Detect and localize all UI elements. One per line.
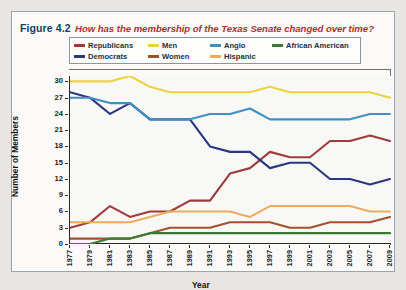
legend-label-african-american: African American bbox=[286, 41, 349, 50]
x-tick-mark bbox=[289, 245, 290, 248]
x-tick-label: 1997 bbox=[265, 250, 274, 266]
x-tick-label: 1977 bbox=[65, 250, 74, 266]
figure-number: Figure 4.2 bbox=[20, 22, 71, 34]
y-tick-label: 15 bbox=[47, 158, 63, 167]
x-tick-label: 1991 bbox=[205, 250, 214, 266]
x-tick-mark bbox=[389, 245, 390, 248]
legend-label-men: Men bbox=[162, 41, 177, 50]
legend-item-republicans: Republicans bbox=[74, 41, 148, 50]
x-tick-mark bbox=[109, 245, 110, 248]
x-tick-mark bbox=[349, 245, 350, 248]
x-tick-label: 1979 bbox=[85, 250, 94, 266]
series-line-african-american bbox=[70, 233, 390, 244]
y-axis-label: Number of Members bbox=[10, 116, 20, 197]
y-tick-mark bbox=[65, 228, 68, 229]
x-tick-label: 1989 bbox=[185, 250, 194, 266]
x-tick-label: 1981 bbox=[105, 250, 114, 266]
legend-swatch-republicans bbox=[74, 44, 85, 47]
y-tick-label: 18 bbox=[47, 141, 63, 150]
y-tick-mark bbox=[65, 163, 68, 164]
chart-lines bbox=[70, 76, 392, 244]
legend-item-anglo: Anglo bbox=[210, 41, 272, 50]
chart-legend: Republicans Men Anglo African American D… bbox=[69, 37, 361, 64]
figure-header: Figure 4.2 How has the membership of the… bbox=[20, 18, 388, 32]
series-line-women bbox=[70, 217, 390, 239]
x-tick-mark bbox=[149, 245, 150, 248]
plot-area bbox=[69, 76, 391, 244]
x-tick-label: 2001 bbox=[305, 250, 314, 266]
legend-swatch-anglo bbox=[210, 44, 221, 47]
legend-item-hispanic: Hispanic bbox=[210, 52, 272, 61]
y-tick-label: 30 bbox=[47, 76, 63, 85]
y-tick-label: 12 bbox=[47, 174, 63, 183]
legend-label-hispanic: Hispanic bbox=[224, 52, 256, 61]
x-tick-mark bbox=[89, 245, 90, 248]
legend-swatch-democrats bbox=[74, 55, 85, 58]
y-tick-mark bbox=[65, 195, 68, 196]
x-tick-label: 1983 bbox=[125, 250, 134, 266]
figure-title: How has the membership of the Texas Sena… bbox=[75, 23, 374, 34]
y-tick-label: 27 bbox=[47, 93, 63, 102]
y-tick-mark bbox=[65, 211, 68, 212]
series-line-men bbox=[70, 76, 390, 98]
y-tick-label: 24 bbox=[47, 109, 63, 118]
legend-item-women: Women bbox=[148, 52, 210, 61]
x-tick-mark bbox=[269, 245, 270, 248]
x-tick-mark bbox=[369, 245, 370, 248]
x-tick-label: 1985 bbox=[145, 250, 154, 266]
x-tick-mark bbox=[189, 245, 190, 248]
x-tick-label: 2005 bbox=[345, 250, 354, 266]
legend-label-women: Women bbox=[162, 52, 189, 61]
legend-item-democrats: Democrats bbox=[74, 52, 148, 61]
y-tick-mark bbox=[65, 98, 68, 99]
y-tick-mark bbox=[65, 81, 68, 82]
legend-swatch-african-american bbox=[272, 44, 283, 47]
legend-swatch-women bbox=[148, 55, 159, 58]
x-tick-mark bbox=[69, 245, 70, 248]
legend-label-republicans: Republicans bbox=[88, 41, 133, 50]
legend-swatch-hispanic bbox=[210, 55, 221, 58]
y-tick-mark bbox=[65, 146, 68, 147]
x-tick-mark bbox=[329, 245, 330, 248]
x-tick-label: 2007 bbox=[365, 250, 374, 266]
x-tick-label: 2003 bbox=[325, 250, 334, 266]
y-tick-label: 0 bbox=[47, 239, 63, 248]
y-tick-label: 6 bbox=[47, 206, 63, 215]
y-tick-mark bbox=[65, 244, 68, 245]
plot-frame-top bbox=[69, 69, 391, 70]
x-tick-label: 1987 bbox=[165, 250, 174, 266]
x-tick-mark bbox=[169, 245, 170, 248]
x-tick-label: 1995 bbox=[245, 250, 254, 266]
legend-swatch-men bbox=[148, 44, 159, 47]
x-axis-label: Year bbox=[192, 280, 210, 290]
x-tick-mark bbox=[209, 245, 210, 248]
y-tick-mark bbox=[65, 130, 68, 131]
x-tick-label: 1993 bbox=[225, 250, 234, 266]
y-tick-label: 3 bbox=[47, 223, 63, 232]
y-tick-mark bbox=[65, 114, 68, 115]
legend-item-men: Men bbox=[148, 41, 210, 50]
legend-row-2: Democrats Women Hispanic bbox=[74, 51, 360, 62]
x-tick-mark bbox=[229, 245, 230, 248]
x-tick-label: 1999 bbox=[285, 250, 294, 266]
legend-label-anglo: Anglo bbox=[224, 41, 246, 50]
x-tick-label: 2009 bbox=[385, 250, 394, 266]
x-tick-mark bbox=[309, 245, 310, 248]
x-tick-mark bbox=[249, 245, 250, 248]
y-tick-label: 9 bbox=[47, 190, 63, 199]
figure-card: Figure 4.2 How has the membership of the… bbox=[11, 11, 395, 272]
y-tick-mark bbox=[65, 179, 68, 180]
x-tick-mark bbox=[129, 245, 130, 248]
series-line-republicans bbox=[70, 136, 390, 228]
series-line-democrats bbox=[70, 92, 390, 184]
legend-row-1: Republicans Men Anglo African American bbox=[74, 40, 360, 51]
y-tick-label: 21 bbox=[47, 125, 63, 134]
legend-item-african-american: African American bbox=[272, 41, 349, 50]
series-line-hispanic bbox=[70, 206, 390, 222]
legend-label-democrats: Democrats bbox=[88, 52, 127, 61]
